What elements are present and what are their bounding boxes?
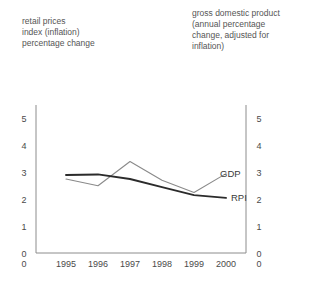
tick-label: 0	[21, 259, 26, 269]
tick-label: 3	[21, 168, 26, 178]
tick-label: 2000	[216, 259, 236, 269]
x-axis-tick-labels: 19951996199719981999200000	[21, 259, 261, 269]
tick-label: 3	[256, 168, 261, 178]
tick-label: 5	[21, 114, 26, 124]
tick-label: 4	[256, 141, 261, 151]
tick-label: 1	[256, 222, 261, 232]
rpi-series-line	[66, 174, 226, 197]
right-axis-tick-labels: 012345	[256, 114, 261, 259]
chart-svg: 012345 012345 19951996199719981999200000…	[0, 78, 312, 278]
tick-label: 2	[21, 195, 26, 205]
left-axis-caption: retail prices index (inflation) percenta…	[22, 16, 142, 49]
tick-label: 1995	[56, 259, 76, 269]
left-axis-tick-labels: 012345	[21, 114, 26, 259]
gdp-series-line	[66, 162, 226, 193]
tick-label: 4	[21, 141, 26, 151]
tick-label: 1997	[120, 259, 140, 269]
tick-label: 0	[256, 259, 261, 269]
tick-label: 0	[256, 249, 261, 259]
tick-label: 5	[256, 114, 261, 124]
gdp-series-label: GDP	[220, 168, 241, 179]
tick-label: 1996	[88, 259, 108, 269]
tick-label: 1998	[152, 259, 172, 269]
line-chart: 012345 012345 19951996199719981999200000…	[0, 78, 312, 278]
tick-label: 1999	[184, 259, 204, 269]
tick-label: 0	[21, 249, 26, 259]
tick-label: 2	[256, 195, 261, 205]
tick-label: 1	[21, 222, 26, 232]
right-axis-caption: gross domestic product (annual percentag…	[192, 8, 308, 52]
rpi-series-label: RPI	[231, 192, 247, 203]
